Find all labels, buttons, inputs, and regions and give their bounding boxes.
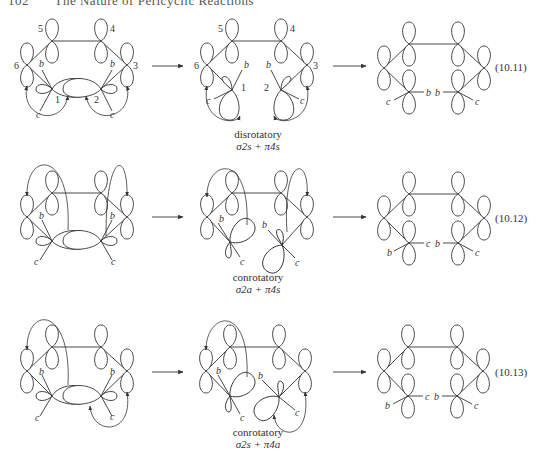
sub-label-c: c [474, 400, 479, 411]
atom-label-5: 5 [218, 23, 223, 34]
sub-label-b: b [435, 87, 440, 98]
sub-label-c: c [386, 96, 391, 107]
mode-label: conrotatory [233, 426, 284, 438]
mode-label: conrotatory [233, 271, 284, 283]
transition-state-structure: b b c c conrotatory σ2s + π4a [200, 321, 312, 450]
atom-label-3: 3 [133, 60, 138, 71]
row-10-13: b b c c b b c c co [21, 320, 528, 450]
sub-label-b: b [219, 213, 224, 224]
sub-label-c: c [295, 407, 300, 418]
sub-label-b: b [266, 59, 271, 70]
sub-label-b: b [244, 59, 249, 70]
sub-label-b: b [39, 366, 44, 377]
reactant-structure: b b c c [21, 320, 134, 427]
transition-state-structure: b b c c conrotatory σ2a + π4s [201, 169, 314, 295]
sub-label-b: b [110, 366, 115, 377]
row-10-12: b b c c b b c c co [21, 165, 528, 295]
sub-label-c: c [34, 256, 39, 267]
product-structure: c b b c [378, 325, 490, 418]
sub-label-b: b [258, 370, 263, 381]
sub-label-b: b [110, 58, 115, 69]
reaction-figure: 5 4 6 3 1 2 b b c c [0, 0, 543, 462]
atom-label-3: 3 [313, 60, 318, 71]
sub-label-c: c [36, 109, 41, 120]
atom-label-1: 1 [55, 94, 60, 105]
atom-label-4: 4 [290, 23, 295, 34]
sub-label-c: c [475, 247, 480, 258]
sub-label-b: b [39, 58, 44, 69]
sub-label-c: c [475, 96, 480, 107]
sub-label-c: c [240, 412, 245, 423]
mode-label: disrotatory [234, 128, 282, 140]
atom-label-6: 6 [14, 60, 19, 71]
sub-label-c: c [35, 412, 40, 423]
sub-label-c: c [110, 109, 115, 120]
atom-label-2: 2 [94, 94, 99, 105]
sub-label-c: c [426, 238, 431, 249]
sub-label-b: b [216, 365, 221, 376]
atom-label-5: 5 [38, 23, 43, 34]
sub-label-b: b [262, 219, 267, 230]
sub-label-b: b [110, 210, 115, 221]
sub-label-b: b [435, 238, 440, 249]
atom-label-2: 2 [264, 82, 269, 93]
sub-label-b: b [385, 400, 390, 411]
sub-label-c: c [206, 95, 211, 106]
reactant-structure: 5 4 6 3 1 2 b b c c [14, 19, 138, 120]
equation-number: (10.11) [495, 61, 527, 74]
sub-label-c: c [425, 391, 430, 402]
product-structure: c b b c [378, 172, 491, 265]
components-label: σ2s + π4a [236, 438, 281, 450]
components-label: σ2a + π4s [236, 283, 281, 295]
sub-label-c: c [110, 411, 115, 422]
equation-number: (10.12) [495, 212, 527, 225]
atom-label-6: 6 [194, 60, 199, 71]
row-10-11: 5 4 6 3 1 2 b b c c [14, 19, 527, 152]
sub-label-b: b [426, 87, 431, 98]
sub-label-c: c [300, 95, 305, 106]
sub-label-b: b [434, 391, 439, 402]
atom-label-1: 1 [241, 82, 246, 93]
sub-label-b: b [39, 210, 44, 221]
product-structure: b b c c [378, 22, 491, 114]
sub-label-b: b [387, 247, 392, 258]
equation-number: (10.13) [495, 366, 527, 379]
components-label: σ2s + π4s [236, 140, 279, 152]
reactant-structure: b b c c [21, 165, 134, 267]
sub-label-c: c [295, 257, 300, 268]
sub-label-c: c [111, 256, 116, 267]
sub-label-c: c [240, 256, 245, 267]
transition-state-structure: 5 4 6 3 1 2 b b c c disrotatory σ2s + π4… [194, 19, 318, 152]
atom-label-4: 4 [110, 23, 115, 34]
